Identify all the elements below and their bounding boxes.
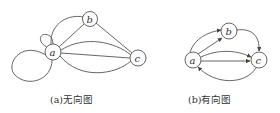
directed-graph: a b c — [185, 23, 267, 81]
edge-a-c-down — [60, 56, 131, 73]
caption-directed: (b)有向图 — [188, 92, 232, 106]
node-c-label: c — [256, 55, 262, 66]
node-a-label: a — [50, 47, 56, 58]
edge-a-c — [61, 53, 130, 58]
edge-a-to-c-up — [201, 51, 251, 57]
node-a-label: a — [190, 55, 196, 66]
edge-c-to-a-down — [198, 67, 256, 81]
caption-undirected: (a)无向图 — [50, 92, 93, 106]
graph-figure: a b c a b c — [0, 0, 280, 113]
edge-a-b — [59, 24, 84, 47]
undirected-graph: a b c — [12, 12, 146, 82]
node-b-label: b — [226, 26, 232, 37]
edge-b-c — [96, 23, 132, 53]
node-b-label: b — [87, 14, 93, 25]
node-c-label: c — [135, 53, 141, 64]
edge-b-to-c — [237, 30, 259, 51]
